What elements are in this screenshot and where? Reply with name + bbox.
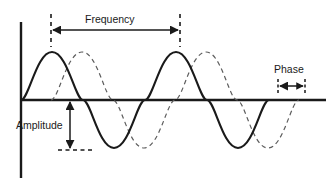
waveform-diagram: Frequency Amplitude Phase	[0, 0, 336, 189]
amplitude-label: Amplitude	[16, 120, 63, 131]
frequency-label: Frequency	[85, 14, 135, 25]
waveform-canvas	[0, 0, 336, 189]
phase-label: Phase	[274, 64, 304, 75]
